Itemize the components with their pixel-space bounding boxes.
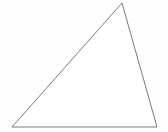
triangle-diagram: [0, 0, 168, 132]
scalene-triangle-shape: [12, 3, 157, 127]
figure-canvas: [0, 0, 168, 132]
